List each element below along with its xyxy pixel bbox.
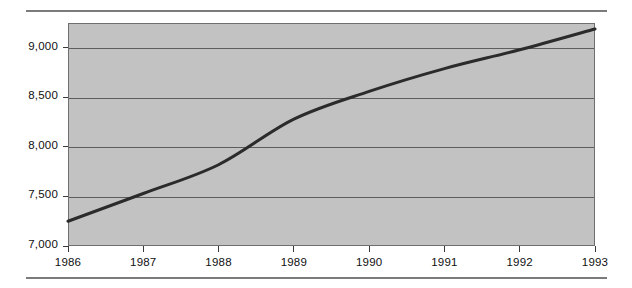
x-axis-tick-label: 1989 (281, 256, 307, 268)
y-axis-tick-label: 8,500 (0, 89, 58, 101)
figure: 7,0007,5008,0008,5009,000198619871988198… (0, 0, 632, 288)
x-axis-tick-label: 1988 (205, 256, 231, 268)
y-axis-tick-label: 7,500 (0, 188, 58, 200)
x-axis-tick-label: 1991 (431, 256, 457, 268)
x-axis-tick-mark (218, 246, 219, 252)
x-axis-tick-mark (595, 246, 596, 252)
x-axis-tick-label: 1992 (507, 256, 533, 268)
x-axis-tick-label: 1987 (130, 256, 156, 268)
y-axis-tick-mark (63, 196, 68, 197)
y-axis-tick-label: 9,000 (0, 40, 58, 52)
x-axis-tick-label: 1990 (356, 256, 382, 268)
x-axis-tick-mark (519, 246, 520, 252)
x-axis-tick-mark (369, 246, 370, 252)
series-line-layer (0, 0, 632, 288)
x-axis-tick-mark (68, 246, 69, 252)
y-axis-tick-label: 8,000 (0, 139, 58, 151)
x-axis-tick-label: 1986 (55, 256, 81, 268)
y-axis-tick-mark (63, 47, 68, 48)
y-axis-tick-mark (63, 97, 68, 98)
x-axis-tick-mark (444, 246, 445, 252)
x-axis-tick-mark (143, 246, 144, 252)
y-axis-tick-label: 7,000 (0, 238, 58, 250)
series-line (68, 29, 595, 221)
y-axis-tick-mark (63, 146, 68, 147)
x-axis-tick-mark (293, 246, 294, 252)
x-axis-tick-label: 1993 (582, 256, 608, 268)
